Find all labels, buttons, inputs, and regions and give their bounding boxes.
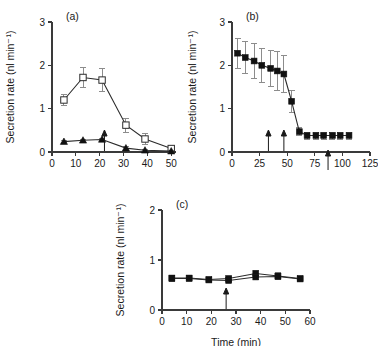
x-tick-label: 25 [254,158,266,169]
x-tick-label: 0 [159,316,165,327]
plot-area-b: 01230255075100125Secretion rate (nl min⁻… [186,10,378,170]
data-point [80,74,86,80]
annotation-arrow [266,130,271,151]
data-point [142,136,148,142]
data-point [321,133,327,139]
x-tick-label: 30 [230,316,242,327]
data-point [346,133,352,139]
y-tick-label: 2 [39,60,45,71]
y-tick-label: 2 [219,60,225,71]
data-point [268,65,274,71]
plot-area-c: 0120102030405060Secretion rate (nl min⁻¹… [114,198,316,346]
plot-area-a: 012301020304050Secretion rate (nl min⁻¹)… [4,10,177,169]
data-point [226,278,232,284]
panel-label: (a) [66,10,79,22]
y-tick-label: 0 [219,147,225,158]
x-tick-label: 50 [282,158,294,169]
y-tick-label: 1 [39,103,45,114]
y-axis-label: Secretion rate (nl min⁻¹) [4,31,16,144]
panel-label: (c) [176,198,188,210]
annotation-arrow [281,130,286,151]
data-point [297,276,303,282]
y-tick-label: 1 [219,103,225,114]
x-tick-label: 20 [206,316,218,327]
data-point [253,274,259,280]
x-tick-label: 10 [70,158,82,169]
data-point [186,276,192,282]
data-point [242,55,248,61]
x-tick-label: 0 [229,158,235,169]
panel-a-chart: 012301020304050Secretion rate (nl min⁻¹)… [0,0,188,188]
panel-label: (b) [246,10,259,22]
y-axis-label: Secretion rate (nl min⁻¹) [186,31,198,144]
y-tick-label: 3 [219,17,225,28]
data-point [296,129,302,135]
data-point [251,58,257,64]
panel-c-chart: 0120102030405060Secretion rate (nl min⁻¹… [110,188,378,346]
x-tick-label: 0 [49,158,55,169]
data-point [330,133,336,139]
data-point [259,62,265,68]
data-point [313,133,319,139]
x-tick-label: 50 [280,316,292,327]
series-line [64,77,171,148]
x-tick-label: 40 [255,316,267,327]
series-filled-triangle [60,136,175,154]
x-tick-label: 30 [118,158,130,169]
annotation-arrow [224,288,229,309]
x-tick-label: 40 [142,158,154,169]
panel-b-chart: 01230255075100125Secretion rate (nl min⁻… [188,0,378,188]
data-point [169,276,175,282]
y-tick-label: 1 [149,255,155,266]
x-tick-label: 75 [309,158,321,169]
series-filled-square [235,38,353,139]
data-point [206,277,212,283]
series-open-square [61,68,175,152]
x-axis-label: Time (min) [211,336,261,346]
data-point [304,133,310,139]
data-point [289,98,295,104]
data-point [337,133,343,139]
x-tick-label: 10 [181,316,193,327]
x-tick-label: 60 [304,316,316,327]
x-tick-label: 125 [362,158,378,169]
y-tick-label: 0 [39,147,45,158]
annotation-arrow [325,150,330,170]
y-axis-label: Secretion rate (nl min⁻¹) [114,204,126,317]
data-point [61,97,67,103]
x-tick-label: 20 [94,158,106,169]
x-tick-label: 50 [166,158,178,169]
data-point [275,274,281,280]
data-point [99,77,105,83]
data-point [123,122,129,128]
y-tick-label: 3 [39,17,45,28]
data-point [235,50,241,56]
x-tick-label: 100 [334,158,351,169]
y-tick-label: 2 [149,205,155,216]
figure-three-panel-secretion-rate: 012301020304050Secretion rate (nl min⁻¹)… [0,0,378,346]
data-point [281,71,287,77]
data-point [274,68,280,74]
y-tick-label: 0 [149,305,155,316]
